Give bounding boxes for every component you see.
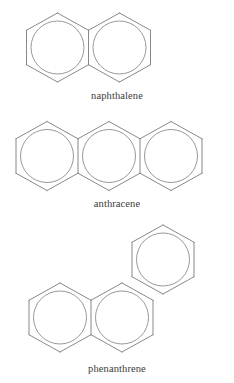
ring-bond [120, 13, 151, 30]
ring-bond [109, 122, 140, 139]
ring-bond [91, 283, 122, 300]
aromatic-circle [83, 130, 136, 183]
aromatic-circle [93, 21, 146, 74]
ring-bond [27, 13, 58, 30]
ring-bond [171, 122, 202, 139]
ring-bond [109, 173, 140, 190]
aromatic-circle [21, 130, 74, 183]
ring-bond [132, 277, 163, 294]
ring-bond-lines [16, 13, 202, 352]
aromatic-circle [145, 130, 198, 183]
ring-bond [89, 65, 120, 82]
aromatic-structures-drawing [0, 0, 234, 383]
ring-bond [78, 173, 109, 190]
ring-bond [16, 122, 47, 139]
ring-bond [122, 283, 153, 300]
ring-bond [27, 65, 58, 82]
ring-bond [60, 335, 91, 352]
caption-phenanthrene: phenanthrene [0, 363, 234, 375]
ring-bond [47, 122, 78, 139]
figure-sheet: naphthalene anthracene phenanthrene [0, 0, 234, 383]
aromatic-circle [31, 21, 84, 74]
ring-bond [60, 283, 91, 300]
ring-bond [58, 13, 89, 30]
ring-bond [16, 173, 47, 190]
ring-bond [132, 225, 163, 242]
caption-naphthalene: naphthalene [0, 90, 234, 102]
ring-bond [58, 65, 89, 82]
aromatic-circles [21, 21, 198, 344]
ring-bond [140, 173, 171, 190]
ring-bond [163, 225, 194, 242]
ring-bond [171, 173, 202, 190]
caption-anthracene: anthracene [0, 198, 234, 210]
ring-bond [78, 122, 109, 139]
ring-bond [122, 335, 153, 352]
ring-bond [29, 335, 60, 352]
ring-bond [29, 283, 60, 300]
aromatic-circle [34, 291, 87, 344]
ring-bond [89, 13, 120, 30]
aromatic-circle [96, 291, 149, 344]
ring-bond [91, 335, 122, 352]
ring-bond [163, 277, 194, 294]
ring-bond [140, 122, 171, 139]
ring-bond [120, 65, 151, 82]
aromatic-circle [137, 233, 190, 286]
ring-bond [47, 173, 78, 190]
